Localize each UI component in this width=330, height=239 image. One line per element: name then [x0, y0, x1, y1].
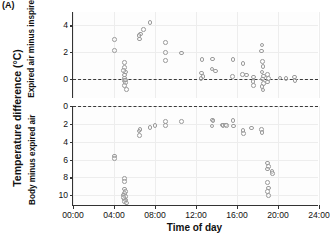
- x-axis-tick: [155, 205, 156, 209]
- data-point: [261, 64, 266, 69]
- data-point: [231, 118, 236, 123]
- x-axis-tick: [196, 205, 197, 209]
- scatter-plot-top: 024: [72, 12, 318, 98]
- data-point: [148, 20, 153, 25]
- panel-letter: (A): [2, 0, 15, 10]
- axis-label-x: Time of day: [72, 222, 317, 233]
- x-axis-tick: [73, 205, 74, 209]
- x-axis-tick: [114, 205, 115, 209]
- y-axis-tick: [70, 52, 74, 53]
- y-axis-tick: [70, 177, 74, 178]
- x-axis-tick: [237, 205, 238, 209]
- data-point: [122, 179, 127, 184]
- x-axis-tick: [278, 205, 279, 209]
- x-axis-tick-label: 24:00: [308, 210, 330, 220]
- gridline-horizontal: [73, 177, 318, 178]
- y-axis-tick-label: 4: [63, 137, 68, 147]
- gridline-vertical: [319, 12, 320, 98]
- data-point: [122, 60, 127, 65]
- data-point: [241, 131, 246, 136]
- data-point: [265, 180, 270, 185]
- data-point: [211, 119, 216, 124]
- gridline-horizontal: [73, 142, 318, 143]
- axis-label-y-outer: Temperature difference (°C): [11, 18, 23, 218]
- gridline-horizontal: [73, 195, 318, 196]
- data-point: [112, 48, 117, 53]
- data-point: [124, 87, 129, 92]
- data-point: [231, 124, 236, 129]
- y-axis-tick: [70, 160, 74, 161]
- data-point: [210, 57, 215, 62]
- gridline-vertical: [155, 106, 156, 205]
- scatter-plot-bottom: 024681000:0004:0008:0012:0016:0020:0024:…: [72, 106, 318, 206]
- data-point: [270, 171, 275, 176]
- data-point: [141, 27, 146, 32]
- y-axis-tick-label: 0: [63, 74, 68, 84]
- data-point: [231, 57, 236, 62]
- y-axis-tick-label: 2: [63, 47, 68, 57]
- gridline-horizontal: [73, 52, 318, 53]
- x-axis-tick-label: 00:00: [62, 210, 84, 220]
- data-point: [265, 80, 270, 85]
- x-axis-tick: [319, 205, 320, 209]
- y-axis-tick-label: 6: [63, 155, 68, 165]
- data-point: [112, 37, 117, 42]
- data-point: [241, 61, 246, 66]
- x-axis-tick-label: 16:00: [226, 210, 248, 220]
- data-point: [213, 69, 218, 74]
- y-axis-tick-label: 4: [63, 20, 68, 30]
- data-point: [163, 123, 168, 128]
- y-axis-tick: [70, 124, 74, 125]
- data-point: [293, 78, 298, 83]
- data-point: [153, 123, 158, 128]
- gridline-vertical: [319, 106, 320, 205]
- data-point: [112, 156, 117, 161]
- x-axis-tick-label: 20:00: [267, 210, 289, 220]
- zero-reference-line: [73, 106, 318, 107]
- data-point: [230, 74, 235, 79]
- data-point: [261, 88, 266, 93]
- data-point: [163, 50, 168, 55]
- data-point: [249, 126, 254, 131]
- data-point: [148, 125, 153, 130]
- gridline-vertical: [196, 106, 197, 205]
- gridline-vertical: [278, 106, 279, 205]
- gridline-horizontal: [73, 25, 318, 26]
- data-point: [137, 133, 142, 138]
- y-axis-tick-label: 2: [63, 119, 68, 129]
- data-point: [121, 195, 126, 200]
- gridline-horizontal: [73, 160, 318, 161]
- data-point: [179, 51, 184, 56]
- data-point: [259, 49, 264, 54]
- x-axis-tick-label: 08:00: [144, 210, 166, 220]
- y-axis-tick: [70, 195, 74, 196]
- data-point: [179, 119, 184, 124]
- data-point: [260, 130, 265, 135]
- data-point: [224, 123, 229, 128]
- data-point: [121, 68, 126, 73]
- data-point: [124, 201, 129, 206]
- y-axis-tick: [70, 142, 74, 143]
- data-point: [210, 124, 215, 129]
- data-point: [244, 73, 249, 78]
- y-axis-tick: [70, 25, 74, 26]
- data-point: [163, 58, 168, 63]
- x-axis-tick-label: 04:00: [103, 210, 125, 220]
- data-point: [251, 83, 256, 88]
- y-axis-tick-label: 0: [63, 101, 68, 111]
- data-point: [200, 57, 205, 62]
- gridline-horizontal: [73, 124, 318, 125]
- gridline-vertical: [73, 106, 74, 205]
- data-point: [266, 193, 271, 198]
- data-point: [260, 43, 265, 48]
- x-axis-tick-label: 12:00: [185, 210, 207, 220]
- axis-label-y-bottom-panel: Body minus expired air: [28, 110, 38, 210]
- y-axis-tick-label: 8: [63, 172, 68, 182]
- y-axis-tick-label: 10: [58, 190, 68, 200]
- axis-label-y-top-panel: Expired air minus inspired air: [27, 6, 37, 98]
- data-point: [163, 40, 168, 45]
- gridline-vertical: [237, 106, 238, 205]
